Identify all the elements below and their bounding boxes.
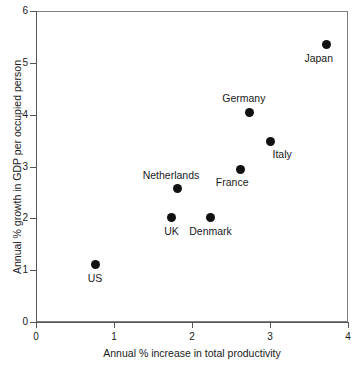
data-point[interactable] (245, 108, 254, 117)
x-axis-title: Annual % increase in total productivity (36, 347, 348, 359)
x-tick-mark (348, 322, 349, 328)
y-axis-title: Annual % growth in GDP per occupied pers… (11, 12, 23, 323)
data-point-label: US (88, 273, 103, 284)
y-tick-mark (30, 218, 36, 219)
plot-area (36, 11, 348, 322)
x-tick-label: 3 (258, 332, 282, 342)
x-tick-label: 4 (336, 332, 359, 342)
data-point[interactable] (266, 137, 275, 146)
x-tick-mark (114, 322, 115, 328)
x-tick-label: 1 (102, 332, 126, 342)
data-point-label: UK (164, 226, 179, 237)
y-tick-mark (30, 11, 36, 12)
y-tick-mark (30, 167, 36, 168)
y-tick-mark (30, 115, 36, 116)
x-tick-mark (270, 322, 271, 328)
data-point-label: Japan (304, 53, 333, 64)
data-point-label: Denmark (189, 226, 232, 237)
data-point-label: Italy (273, 149, 292, 160)
x-tick-mark (36, 322, 37, 328)
data-point-label: Netherlands (143, 170, 200, 181)
y-axis-line (36, 11, 37, 322)
y-tick-mark (30, 63, 36, 64)
data-point-label: Germany (222, 93, 265, 104)
data-point[interactable] (236, 165, 245, 174)
x-tick-label: 2 (180, 332, 204, 342)
data-point-label: France (216, 177, 249, 188)
x-tick-mark (192, 322, 193, 328)
scatter-chart-figure: 0123456 01234 USUKNetherlandsDenmarkFran… (0, 0, 359, 365)
y-tick-mark (30, 270, 36, 271)
x-tick-label: 0 (24, 332, 48, 342)
data-point[interactable] (173, 184, 182, 193)
